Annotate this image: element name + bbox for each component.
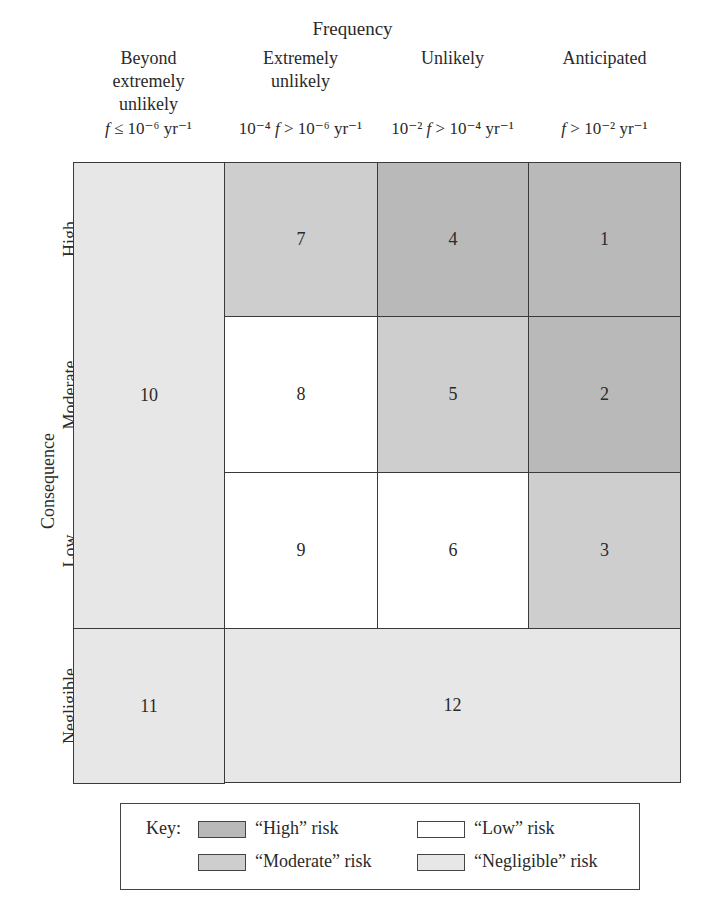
cell-12-negligible: 12 — [224, 628, 681, 783]
column-header-line: Unlikely — [377, 47, 528, 70]
consequence-axis-title: Consequence — [38, 421, 62, 541]
cell-6-low: 6 — [377, 472, 529, 629]
cell-8-low: 8 — [224, 316, 378, 473]
frequency-axis-title: Frequency — [0, 18, 705, 40]
cell-4-high: 4 — [377, 162, 529, 317]
column-header-line: Anticipated — [528, 47, 681, 70]
cell-number: 11 — [140, 696, 157, 717]
column-header-extremely-unlikely: Extremely unlikely — [224, 47, 377, 93]
cell-5-moderate: 5 — [377, 316, 529, 473]
cell-number: 12 — [444, 695, 462, 716]
legend-swatch-high — [198, 821, 246, 838]
frequency-range-col3: 10⁻² f > 10⁻⁴ yr⁻¹ — [372, 118, 533, 139]
cell-number: 8 — [297, 384, 306, 405]
cell-number: 1 — [600, 229, 609, 250]
legend-key-label: Key: — [146, 818, 181, 839]
cell-2-high: 2 — [528, 316, 681, 473]
cell-number: 6 — [449, 540, 458, 561]
legend-swatch-moderate — [198, 854, 246, 871]
column-header-line: Beyond — [73, 47, 224, 70]
legend-label-high: “High” risk — [255, 818, 338, 839]
column-header-line: unlikely — [224, 70, 377, 93]
column-header-line: extremely — [73, 70, 224, 93]
legend-label-negligible: “Negligible” risk — [474, 851, 597, 872]
column-header-unlikely: Unlikely — [377, 47, 528, 70]
cell-9-low: 9 — [224, 472, 378, 629]
cell-number: 3 — [600, 540, 609, 561]
cell-1-high: 1 — [528, 162, 681, 317]
legend-swatch-negligible — [417, 854, 465, 871]
cell-10-negligible: 10 — [73, 162, 225, 629]
cell-number: 4 — [449, 229, 458, 250]
cell-3-moderate: 3 — [528, 472, 681, 629]
frequency-range-col1: f ≤ 10⁻⁶ yr⁻¹ — [73, 118, 224, 139]
column-header-anticipated: Anticipated — [528, 47, 681, 70]
column-header-line: unlikely — [73, 93, 224, 116]
legend-label-moderate: “Moderate” risk — [255, 851, 371, 872]
cell-number: 5 — [449, 384, 458, 405]
column-header-beyond-extremely-unlikely: Beyond extremely unlikely — [73, 47, 224, 116]
legend-swatch-low — [417, 821, 465, 838]
cell-11-negligible: 11 — [73, 628, 225, 784]
frequency-range-col4: f > 10⁻² yr⁻¹ — [528, 118, 681, 139]
cell-7-moderate: 7 — [224, 162, 378, 317]
cell-number: 2 — [600, 384, 609, 405]
cell-number: 10 — [140, 385, 158, 406]
legend-box: Key: “High” risk “Low” risk “Moderate” r… — [120, 803, 640, 890]
frequency-range-col2: 10⁻⁴ f > 10⁻⁶ yr⁻¹ — [216, 118, 385, 139]
legend-label-low: “Low” risk — [474, 818, 554, 839]
cell-number: 9 — [297, 540, 306, 561]
column-header-line: Extremely — [224, 47, 377, 70]
cell-number: 7 — [297, 229, 306, 250]
